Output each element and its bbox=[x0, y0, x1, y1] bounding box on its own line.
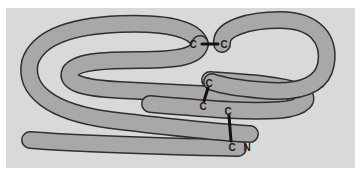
cysteine-label-c5: C bbox=[224, 106, 231, 117]
cysteine-label-c4: C bbox=[199, 101, 206, 112]
disulfide-bond-3 bbox=[229, 116, 231, 141]
cysteine-label-c2: C bbox=[220, 39, 227, 50]
n-terminus-label: N bbox=[243, 142, 250, 153]
cysteine-label-c1: C bbox=[189, 39, 196, 50]
protein-chain-diagram: C C C C C C N bbox=[0, 0, 364, 178]
cysteine-label-c6: C bbox=[228, 142, 235, 153]
cysteine-label-c3: C bbox=[205, 78, 212, 89]
